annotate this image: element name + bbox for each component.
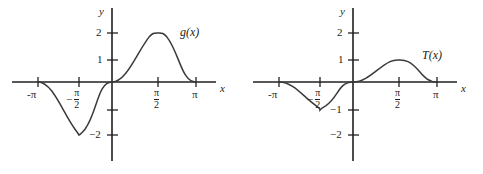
curve-t xyxy=(279,60,437,110)
fraction-numerator: π xyxy=(314,88,321,99)
fraction-numerator: π xyxy=(394,88,401,99)
x-tick-label-pi-half: π 2 xyxy=(153,88,160,110)
x-tick-label-neg-pi-half: − π 2 xyxy=(307,88,321,110)
y-tick-label-2: 2 xyxy=(96,27,102,38)
fraction-numerator: π xyxy=(153,88,160,99)
y-axis-label: y xyxy=(99,6,104,17)
fraction-denominator: 2 xyxy=(73,100,80,111)
function-label-t: T(x) xyxy=(422,49,442,61)
x-tick-label-pi: π xyxy=(433,89,439,100)
y-tick-label-neg-1: −1 xyxy=(330,104,342,115)
x-axis-label: x xyxy=(220,83,225,94)
curve-g xyxy=(38,33,196,135)
fraction-numerator: π xyxy=(73,88,80,99)
minus-sign: − xyxy=(307,93,313,105)
x-tick-label-pi-half: π 2 xyxy=(394,88,401,110)
x-tick-label-neg-pi-half: − π 2 xyxy=(66,88,80,110)
y-tick-label-1: 1 xyxy=(97,54,103,65)
fraction-denominator: 2 xyxy=(394,100,401,111)
fraction-denominator: 2 xyxy=(314,100,321,111)
chart-svg-t xyxy=(241,0,483,174)
minus-sign: − xyxy=(66,93,72,105)
x-axis-label: x xyxy=(461,83,466,94)
chart-svg-g xyxy=(0,0,241,174)
x-tick-label-neg-pi: -π xyxy=(268,89,277,100)
y-tick-label-1: 1 xyxy=(338,54,344,65)
y-tick-label-2: 2 xyxy=(337,27,343,38)
function-label-g: g(x) xyxy=(180,26,199,38)
chart-panel-t: y x T(x) 2 1 −1 −2 -π − π 2 π 2 π xyxy=(241,0,483,174)
chart-panel-g: y x g(x) 2 1 −2 -π − π 2 π 2 π xyxy=(0,0,241,174)
fraction-denominator: 2 xyxy=(153,100,160,111)
trig-graphs-figure: y x g(x) 2 1 −2 -π − π 2 π 2 π xyxy=(0,0,483,174)
y-tick-label-neg-2: −2 xyxy=(330,129,342,140)
y-axis-label: y xyxy=(340,6,345,17)
x-tick-label-neg-pi: -π xyxy=(27,89,36,100)
x-tick-label-pi: π xyxy=(192,89,198,100)
y-tick-label-neg-2: −2 xyxy=(89,129,101,140)
